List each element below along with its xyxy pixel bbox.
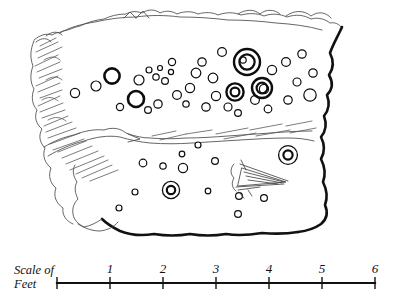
panel-left-edge — [31, 41, 73, 224]
fissure-hatch-a — [58, 141, 104, 170]
cup-mark — [236, 193, 243, 200]
cup-mark — [195, 142, 201, 148]
cup-mark — [212, 158, 219, 165]
cup-mark — [134, 75, 144, 85]
cup-mark — [284, 96, 292, 104]
panel-top-texture-d — [36, 32, 62, 42]
cup-mark — [116, 103, 123, 110]
fissure-hatch-d — [216, 124, 290, 139]
fissure-hatch-b — [76, 160, 118, 181]
cup-mark — [298, 50, 306, 58]
cup-and-ring-mark — [234, 49, 260, 75]
cup-mark — [146, 67, 152, 73]
cup-mark — [183, 101, 189, 107]
panel-top-edge-secondary — [60, 16, 322, 34]
lower-cup-marks — [116, 142, 267, 217]
cup-mark — [282, 58, 291, 67]
cup-mark — [224, 103, 232, 111]
cup-mark — [139, 159, 147, 167]
scale-label-1: 1 — [107, 261, 114, 276]
scale-label-2: 2 — [160, 261, 167, 276]
cup-mark — [309, 69, 317, 77]
panel-top-texture-b — [238, 10, 280, 14]
cup-mark — [293, 78, 301, 86]
upper-field-marks — [70, 48, 317, 117]
cup-mark — [185, 83, 194, 92]
cup-mark — [153, 74, 159, 80]
cup-mark — [218, 48, 227, 57]
cup-mark — [132, 189, 138, 195]
lower-field-marks — [116, 142, 297, 217]
cup-mark — [211, 91, 220, 100]
cup-mark — [116, 205, 122, 211]
cup-mark — [162, 78, 169, 85]
panel-lower-left-edge — [73, 165, 102, 227]
scale-label-6: 6 — [372, 261, 379, 276]
cup-mark — [168, 69, 173, 74]
cup-mark — [235, 110, 242, 117]
cup-mark — [267, 65, 276, 74]
rock-art-panel-figure: 1 2 3 4 5 6 Scale of Feet — [0, 0, 393, 302]
cup-mark — [154, 100, 162, 108]
scale-label-3: 3 — [212, 261, 220, 276]
scale-caption-line2: Feet — [13, 277, 37, 291]
cup-mark — [168, 58, 175, 65]
cup-mark — [205, 188, 211, 194]
panel-bottom-edge — [102, 219, 298, 236]
cup-and-ring-mark — [162, 181, 179, 198]
cup-mark — [173, 91, 182, 100]
cup-mark — [158, 66, 163, 71]
scale-bar: 1 2 3 4 5 6 Scale of Feet — [13, 261, 379, 291]
cup-mark — [91, 81, 101, 91]
cup-mark — [70, 88, 79, 97]
cup-mark-deep — [128, 91, 144, 107]
scale-label-5: 5 — [319, 261, 326, 276]
radial-groove-feature — [231, 160, 288, 198]
panel-outline — [31, 10, 342, 236]
cup-mark — [178, 163, 187, 172]
cup-mark — [202, 103, 210, 111]
cup-mark — [304, 89, 316, 101]
cup-mark — [145, 107, 152, 114]
scale-caption-line1: Scale of — [14, 263, 55, 277]
cup-mark-deep — [104, 68, 119, 83]
cup-mark — [198, 58, 206, 66]
upper-cup-marks — [70, 48, 317, 117]
cup-mark — [261, 195, 268, 202]
cup-mark — [179, 151, 185, 157]
fissure-main-line — [44, 128, 312, 147]
panel-top-texture-c — [286, 12, 331, 19]
cup-mark — [160, 163, 166, 169]
cup-and-ring-mark — [279, 146, 298, 165]
cup-and-ring-mark — [226, 83, 243, 100]
cup-mark — [264, 105, 272, 113]
cup-mark — [208, 73, 218, 83]
upper-cup-and-ring-marks — [226, 49, 272, 101]
panel-drawing: 1 2 3 4 5 6 Scale of Feet — [0, 0, 393, 302]
cup-mark — [235, 211, 242, 218]
cup-mark — [191, 68, 201, 78]
scale-label-4: 4 — [266, 261, 273, 276]
